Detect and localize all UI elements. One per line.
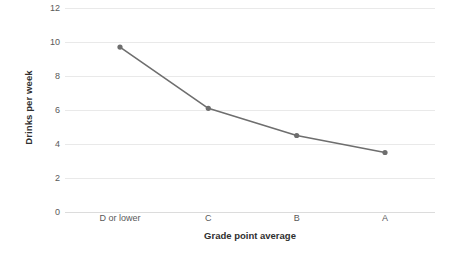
x-axis-tick-label: A bbox=[382, 213, 388, 223]
plot-area bbox=[65, 8, 435, 212]
y-axis-tick-label: 8 bbox=[36, 71, 60, 81]
y-axis-title-label: Drinks per week bbox=[23, 70, 34, 144]
data-series-line bbox=[65, 8, 435, 212]
y-axis-tick-labels: 024681012 bbox=[36, 0, 60, 215]
x-axis-tick-labels: D or lowerCBA bbox=[65, 213, 435, 229]
data-point-marker bbox=[294, 133, 299, 138]
y-axis-tick-label: 0 bbox=[36, 207, 60, 217]
y-axis-tick-label: 12 bbox=[36, 3, 60, 13]
data-point-marker bbox=[206, 106, 211, 111]
line-chart: Drinks per week 024681012 D or lowerCBA … bbox=[0, 0, 458, 253]
x-axis-tick-label: B bbox=[294, 213, 300, 223]
x-axis-title: Grade point average bbox=[65, 230, 435, 241]
data-point-marker bbox=[382, 150, 387, 155]
y-axis-title: Drinks per week bbox=[18, 0, 38, 215]
data-point-marker bbox=[117, 45, 122, 50]
x-axis-tick-label: D or lower bbox=[99, 213, 140, 223]
y-axis-tick-label: 4 bbox=[36, 139, 60, 149]
y-axis-tick-label: 10 bbox=[36, 37, 60, 47]
y-axis-tick-label: 6 bbox=[36, 105, 60, 115]
y-axis-tick-label: 2 bbox=[36, 173, 60, 183]
x-axis-tick-label: C bbox=[205, 213, 212, 223]
series-line bbox=[120, 47, 385, 152]
